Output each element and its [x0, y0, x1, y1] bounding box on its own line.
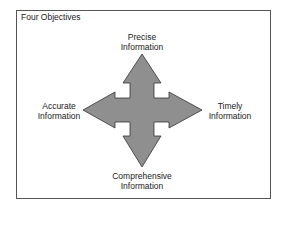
label-right-line1: Timely — [203, 101, 257, 111]
four-way-arrow-shape — [83, 54, 202, 167]
label-left-line1: Accurate — [34, 101, 84, 111]
label-top-line2: Information — [112, 42, 172, 52]
label-bottom: Comprehensive Information — [102, 171, 182, 191]
label-left: Accurate Information — [34, 101, 84, 121]
label-right: Timely Information — [203, 101, 257, 121]
label-top-line1: Precise — [112, 32, 172, 42]
label-top: Precise Information — [112, 32, 172, 52]
label-left-line2: Information — [34, 111, 84, 121]
label-bottom-line1: Comprehensive — [102, 171, 182, 181]
label-right-line2: Information — [203, 111, 257, 121]
label-bottom-line2: Information — [102, 181, 182, 191]
